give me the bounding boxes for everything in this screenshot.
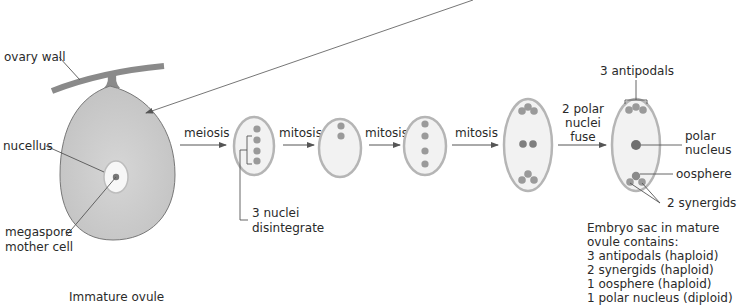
summary-heading-line2: ovule contains: xyxy=(587,235,678,249)
embryo-sac-summary: Embryo sac in mature ovule contains: 3 a… xyxy=(587,221,733,305)
step-label-fuse-line3: fuse xyxy=(570,130,595,144)
oosphere xyxy=(632,172,640,180)
oosphere-label: oosphere xyxy=(676,167,732,181)
summary-heading-line1: Embryo sac in mature xyxy=(587,221,719,235)
mature-embryo-sac: 3 antipodals polar nucleus oosphere 2 sy… xyxy=(600,64,736,210)
step-label-mitosis-3: mitosis xyxy=(455,126,498,140)
polar-nucleus xyxy=(631,140,641,150)
synergid xyxy=(638,178,646,186)
embryo-sac-diagram: ovary wall nucellus megaspore mother cel… xyxy=(0,0,742,308)
ovary-wall-label: ovary wall xyxy=(4,50,65,64)
zoom-pointer-line xyxy=(146,0,473,113)
immature-ovule: ovary wall nucellus megaspore mother cel… xyxy=(3,50,175,304)
disintegrate-label-line1: 3 nuclei xyxy=(252,206,299,220)
antipodal xyxy=(639,106,647,114)
disintegrate-label-line2: disintegrate xyxy=(252,221,324,235)
megaspore-label-line2: mother cell xyxy=(5,240,73,254)
summary-item: 1 oosphere (haploid) xyxy=(587,277,711,291)
immature-ovule-caption: Immature ovule xyxy=(69,290,164,304)
step-label-fuse-line2: nuclei xyxy=(565,116,601,130)
sac-four-nuclei xyxy=(404,117,446,175)
polar-label-line1: polar xyxy=(685,129,716,143)
nucellus-label: nucellus xyxy=(3,139,53,153)
step-meiosis: meiosis xyxy=(180,126,230,145)
step-mitosis-1: mitosis xyxy=(279,126,322,145)
sac-eight-nuclei xyxy=(504,99,552,191)
polar-label-line2: nucleus xyxy=(685,143,731,157)
summary-item: 2 synergids (haploid) xyxy=(587,263,714,277)
step-mitosis-3: mitosis xyxy=(452,126,498,145)
step-label-mitosis-1: mitosis xyxy=(279,126,322,140)
step-polar-fuse: 2 polar nuclei fuse xyxy=(558,102,606,145)
step-label-mitosis-2: mitosis xyxy=(365,126,408,140)
antipodals-label: 3 antipodals xyxy=(600,64,674,78)
antipodal xyxy=(625,106,633,114)
antipodal xyxy=(632,103,640,111)
megaspore-label-line1: megaspore xyxy=(5,225,72,239)
sac-two-nuclei xyxy=(319,119,361,177)
step-mitosis-2: mitosis xyxy=(365,126,408,145)
step-label-fuse-line1: 2 polar xyxy=(562,102,604,116)
summary-item: 1 polar nucleus (diploid) xyxy=(587,291,733,305)
synergids-label: 2 synergids xyxy=(667,196,736,210)
step-label-meiosis: meiosis xyxy=(184,126,230,140)
summary-item: 3 antipodals (haploid) xyxy=(587,249,718,263)
